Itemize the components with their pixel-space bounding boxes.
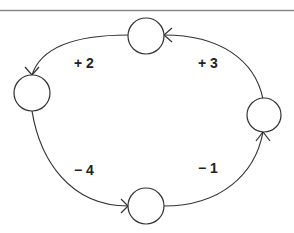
edge-label-bottom-left: − 4 xyxy=(74,162,94,178)
node-bottom xyxy=(128,188,164,224)
edge-left-to-bottom xyxy=(32,111,128,206)
node-right xyxy=(247,98,281,132)
cycle-diagram: + 2 + 3 − 4 − 1 xyxy=(0,0,294,233)
node-left xyxy=(14,75,50,111)
edge-label-top-left: + 2 xyxy=(74,55,94,71)
node-top xyxy=(128,18,164,54)
edge-label-bottom-right: − 1 xyxy=(198,160,218,176)
edge-label-top-right: + 3 xyxy=(198,55,218,71)
